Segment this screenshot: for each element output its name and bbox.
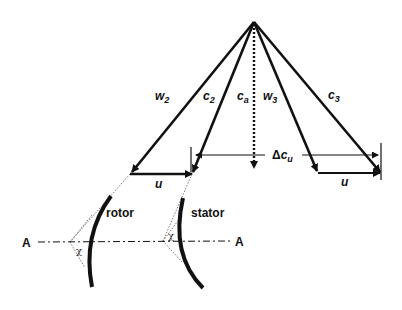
diagram-svg: w2 c2 ca w3 c3 Δcu u u rotor stator A A … xyxy=(0,0,402,310)
label-u-right: u xyxy=(341,175,349,189)
label-c3: c3 xyxy=(328,88,340,104)
label-delta-cu: Δcu xyxy=(272,148,293,164)
label-w2: w2 xyxy=(155,89,169,105)
velocity-triangle-diagram: w2 c2 ca w3 c3 Δcu u u rotor stator A A … xyxy=(0,0,402,310)
axis-line xyxy=(38,241,232,242)
label-ca: ca xyxy=(237,89,249,105)
label-chi-stator: χ xyxy=(168,230,174,241)
label-axis-left: A xyxy=(22,236,31,250)
label-stator: stator xyxy=(191,206,225,220)
vector-w2 xyxy=(132,22,254,172)
label-chi-rotor: χ xyxy=(76,245,82,256)
label-axis-right: A xyxy=(235,235,244,249)
label-u-left: u xyxy=(155,177,163,191)
label-rotor: rotor xyxy=(106,206,134,220)
label-c2: c2 xyxy=(203,89,215,105)
label-w3: w3 xyxy=(263,89,277,105)
